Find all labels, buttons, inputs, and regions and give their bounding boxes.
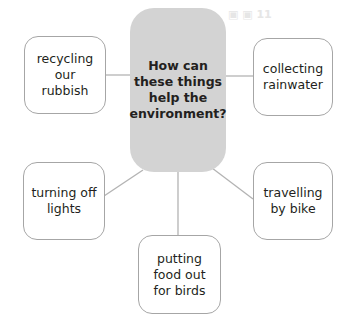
central-question-box: How can these things help the environmen…: [130, 8, 226, 172]
node-lights: turning off lights: [23, 162, 105, 240]
node-birds-line-2: food out: [153, 267, 205, 283]
central-question-line-1: How can: [129, 58, 226, 74]
node-birds-line-1: putting: [153, 251, 205, 267]
node-rainwater-line-1: collecting: [263, 61, 323, 77]
connector-bike: [212, 168, 253, 199]
node-bike: travelling by bike: [253, 162, 333, 240]
central-question-line-3: help the: [129, 90, 226, 106]
node-birds-line-3: for birds: [153, 283, 205, 299]
node-recycling: recycling our rubbish: [24, 36, 106, 114]
central-question-line-2: these things: [129, 74, 226, 90]
node-birds: putting food out for birds: [138, 235, 221, 314]
node-lights-line-2: lights: [31, 201, 96, 217]
node-lights-line-1: turning off: [31, 185, 96, 201]
node-recycling-line-1: recycling: [37, 51, 94, 67]
node-recycling-line-2: our: [37, 67, 94, 83]
central-question-line-4: environment?: [129, 106, 226, 122]
node-recycling-line-3: rubbish: [37, 83, 94, 99]
node-bike-line-2: by bike: [263, 201, 322, 217]
node-rainwater: collecting rainwater: [253, 38, 333, 116]
node-rainwater-line-2: rainwater: [263, 77, 323, 93]
connector-lights: [104, 170, 143, 196]
node-bike-line-1: travelling: [263, 185, 322, 201]
